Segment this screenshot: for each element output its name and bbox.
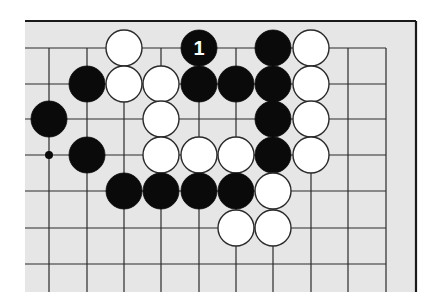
black-stone [69,66,105,102]
white-stone [293,101,329,137]
white-stone [181,137,217,173]
black-stone [218,173,254,209]
black-stone [181,173,217,209]
hoshi-dot-marker [45,151,53,159]
black-stone [255,101,291,137]
black-stone [143,173,179,209]
black-stone [181,66,217,102]
white-stone [255,173,291,209]
black-stone [69,137,105,173]
markers [45,151,53,159]
white-stone [293,137,329,173]
move-number-label: 1 [193,37,204,59]
white-stone [218,137,254,173]
black-stone [31,101,67,137]
white-stone [293,30,329,66]
black-stone [106,173,142,209]
white-stone [106,30,142,66]
white-stone [106,66,142,102]
go-board-diagram: 1 [0,0,436,306]
white-stone [218,210,254,246]
white-stone [293,66,329,102]
black-stone [218,66,254,102]
black-stone [255,66,291,102]
white-stone [143,137,179,173]
white-stone [143,101,179,137]
black-stone [255,137,291,173]
black-stone [255,30,291,66]
white-stone [143,66,179,102]
white-stone [255,210,291,246]
